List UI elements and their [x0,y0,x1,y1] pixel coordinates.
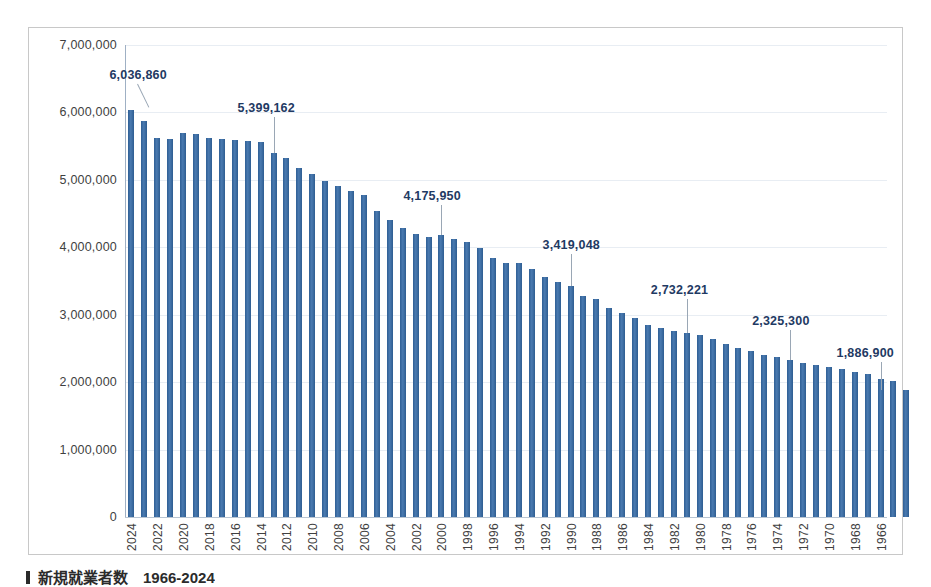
y-axis-tick-label: 6,000,000 [60,105,117,119]
x-axis-tick-label: 2016 [229,523,243,551]
annotation-label: 6,036,860 [109,68,166,82]
figure-caption: 新規就業者数 1966-2024 [26,566,215,587]
y-axis-tick-label: 3,000,000 [60,308,117,322]
x-axis-tick-label: 1996 [487,523,501,551]
caption-bullet-icon [26,571,30,584]
annotation-leader-line [687,299,688,333]
x-axis-tick-label: 1988 [590,523,604,551]
x-axis-tick-label: 2024 [125,523,139,551]
annotation-leader-line [274,117,275,153]
annotation-label: 5,399,162 [238,101,295,115]
chart-frame: 7,000,0006,000,0005,000,0004,000,0003,00… [28,27,903,555]
x-axis-tick-label: 2012 [280,523,294,551]
x-axis-tick-label: 1976 [745,523,759,551]
y-axis-tick-label: 4,000,000 [60,240,117,254]
x-axis-tick-label: 1974 [771,523,785,551]
annotation-label: 4,175,950 [403,189,460,203]
annotation-label: 1,886,900 [837,346,894,360]
annotation-leader-line [571,254,572,286]
x-axis-tick-label: 1980 [694,523,708,551]
x-axis-tick-label: 2018 [203,523,217,551]
annotation-leader-line [881,362,882,390]
x-axis-tick-label: 2006 [358,523,372,551]
annotation-label: 3,419,048 [543,238,600,252]
x-axis-tick-label: 1994 [513,523,527,551]
x-axis-tick-label: 2008 [332,523,346,551]
x-axis-tick-label: 1966 [875,523,889,551]
y-axis-tick-label: 7,000,000 [60,38,117,52]
annotation-leader-line [441,205,442,235]
annotation-label: 2,732,221 [651,283,708,297]
y-axis-tick-label: 1,000,000 [60,443,117,457]
x-axis-tick-label: 1984 [642,523,656,551]
x-axis-tick-label: 2002 [410,523,424,551]
x-axis-tick-label: 2010 [306,523,320,551]
x-axis-tick-label: 1990 [565,523,579,551]
y-axis-tick-label: 5,000,000 [60,173,117,187]
x-axis-tick-label: 2022 [151,523,165,551]
x-axis-tick-label: 1970 [823,523,837,551]
x-axis-tick-label: 1982 [668,523,682,551]
annotation-label: 2,325,300 [752,314,809,328]
x-axis-tick-label: 1998 [461,523,475,551]
x-axis-tick-label: 1986 [616,523,630,551]
caption-text: 新規就業者数 1966-2024 [38,569,215,586]
x-axis-tick-label: 2020 [177,523,191,551]
x-axis-tick-label: 1992 [539,523,553,551]
x-axis-tick-label: 2014 [255,523,269,551]
x-axis-tick-label: 1968 [849,523,863,551]
x-axis-tick-label: 2004 [384,523,398,551]
x-axis-tick-label: 1978 [720,523,734,551]
bar [903,390,909,517]
y-axis-tick-label: 2,000,000 [60,375,117,389]
y-axis-tick-label: 0 [110,510,117,524]
x-axis-tick-label: 2000 [435,523,449,551]
bar [890,381,896,517]
x-axis-tick-label: 1972 [797,523,811,551]
annotation-leader-line [790,330,791,360]
